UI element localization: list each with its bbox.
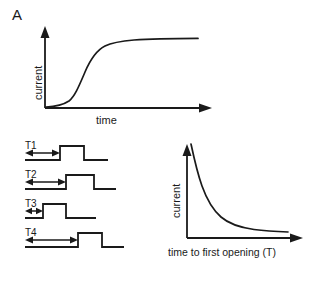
decay-chart-xlabel: time to first opening (T) xyxy=(168,246,276,258)
top-chart-xlabel: time xyxy=(96,114,117,126)
pulse-trace-t1 xyxy=(25,146,108,160)
decay-chart-ylabel: current xyxy=(170,184,182,218)
figure-panel-a: A current time xyxy=(0,0,320,284)
decay-x-axis xyxy=(187,233,303,242)
pulse-label-t1: T1 xyxy=(25,140,37,151)
pulse-label-t3: T3 xyxy=(25,198,37,209)
activation-time-course-chart xyxy=(0,0,320,130)
decay-curve xyxy=(191,144,288,232)
x-axis xyxy=(45,103,212,112)
pulse-label-t4: T4 xyxy=(25,227,37,238)
top-chart-ylabel: current xyxy=(32,66,44,100)
pulse-trace-t2 xyxy=(25,175,116,189)
pulse-trace-t4 xyxy=(25,233,124,247)
sigmoid-curve xyxy=(46,38,198,107)
voltage-pulse-protocol xyxy=(12,138,162,284)
pulse-label-t2: T2 xyxy=(25,169,37,180)
decay-y-axis xyxy=(183,144,192,238)
